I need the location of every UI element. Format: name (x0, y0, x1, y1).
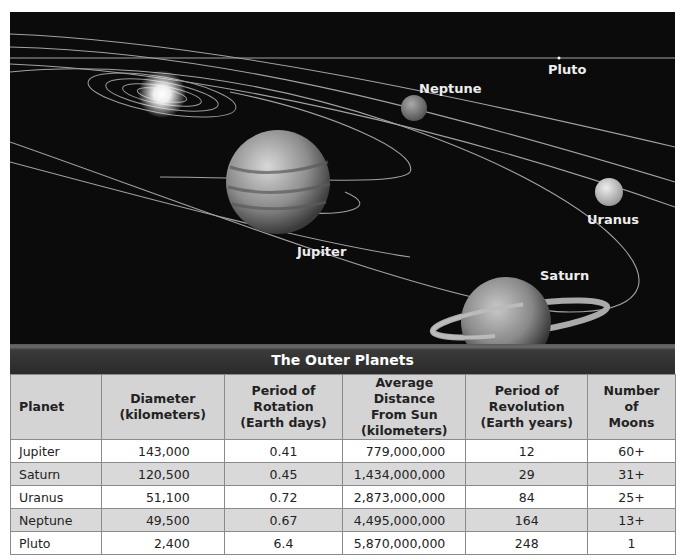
label-neptune: Neptune (419, 81, 482, 96)
cell-diameter: 120,500 (101, 463, 224, 486)
label-pluto: Pluto (548, 62, 586, 77)
cell-revolution: 248 (466, 532, 588, 555)
header-moons: Number ofMoons (588, 375, 676, 440)
cell-rotation: 0.45 (224, 463, 343, 486)
cell-revolution: 84 (466, 486, 588, 509)
header-planet: Planet (11, 375, 102, 440)
sun (138, 70, 186, 118)
table-row: Uranus 51,100 0.72 2,873,000,000 84 25+ (11, 486, 676, 509)
cell-diameter: 49,500 (101, 509, 224, 532)
cell-moons: 60+ (588, 440, 676, 463)
cell-distance: 779,000,000 (343, 440, 466, 463)
cell-rotation: 0.72 (224, 486, 343, 509)
cell-moons: 13+ (588, 509, 676, 532)
cell-diameter: 143,000 (101, 440, 224, 463)
cell-moons: 31+ (588, 463, 676, 486)
cell-diameter: 2,400 (101, 532, 224, 555)
cell-moons: 1 (588, 532, 676, 555)
cell-rotation: 0.41 (224, 440, 343, 463)
table-row: Saturn 120,500 0.45 1,434,000,000 29 31+ (11, 463, 676, 486)
cell-planet: Neptune (11, 509, 102, 532)
outer-planets-table: Planet Diameter(kilometers) Period ofRot… (10, 374, 676, 555)
cell-rotation: 6.4 (224, 532, 343, 555)
cell-distance: 2,873,000,000 (343, 486, 466, 509)
cell-distance: 1,434,000,000 (343, 463, 466, 486)
cell-planet: Pluto (11, 532, 102, 555)
label-uranus: Uranus (587, 212, 639, 227)
cell-moons: 25+ (588, 486, 676, 509)
label-jupiter: Jupiter (297, 244, 346, 259)
table-row: Jupiter 143,000 0.41 779,000,000 12 60+ (11, 440, 676, 463)
header-revolution: Period ofRevolution(Earth years) (466, 375, 588, 440)
cell-planet: Uranus (11, 486, 102, 509)
table-row: Neptune 49,500 0.67 4,495,000,000 164 13… (11, 509, 676, 532)
table-header-row: Planet Diameter(kilometers) Period ofRot… (11, 375, 676, 440)
solar-system-illustration: Pluto Neptune Jupiter Uranus Saturn (10, 12, 675, 344)
cell-revolution: 12 (466, 440, 588, 463)
table-title: The Outer Planets (10, 352, 675, 368)
cell-revolution: 164 (466, 509, 588, 532)
table-title-banner: The Outer Planets (10, 344, 675, 374)
header-rotation: Period ofRotation(Earth days) (224, 375, 343, 440)
cell-planet: Jupiter (11, 440, 102, 463)
cell-distance: 5,870,000,000 (343, 532, 466, 555)
cell-diameter: 51,100 (101, 486, 224, 509)
cell-rotation: 0.67 (224, 509, 343, 532)
cell-distance: 4,495,000,000 (343, 509, 466, 532)
cell-revolution: 29 (466, 463, 588, 486)
label-saturn: Saturn (540, 268, 589, 283)
header-diameter: Diameter(kilometers) (101, 375, 224, 440)
table-row: Pluto 2,400 6.4 5,870,000,000 248 1 (11, 532, 676, 555)
header-distance: Average DistanceFrom Sun(kilometers) (343, 375, 466, 440)
cell-planet: Saturn (11, 463, 102, 486)
